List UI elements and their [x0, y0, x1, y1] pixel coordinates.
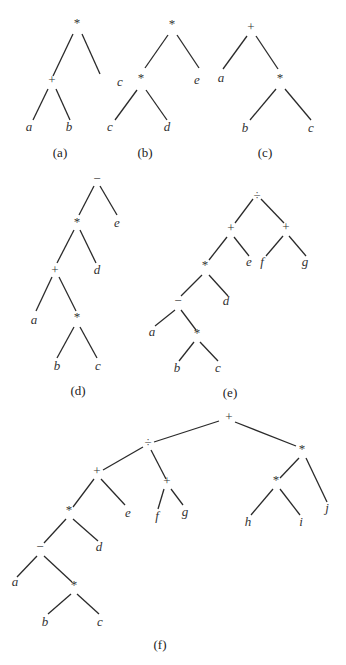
operand-node: c [95, 358, 101, 373]
tree-edge [80, 327, 97, 358]
tree-edge [146, 90, 167, 120]
operator-node: * [71, 577, 78, 592]
operand-node: c [107, 119, 113, 134]
operator-node: * [169, 16, 176, 31]
operator-node: + [247, 19, 254, 34]
operator-node: + [227, 220, 234, 235]
expression-trees-figure: *+cab(a)**ecd(b)+a*bc(c)−*e+da*bc(d)÷++e… [0, 0, 346, 665]
tree-edge [17, 556, 37, 577]
tree-edge [250, 89, 276, 120]
tree-edge [101, 479, 125, 505]
operator-node: * [74, 214, 81, 229]
operand-node: c [215, 360, 221, 375]
tree-caption: (e) [223, 385, 237, 400]
operator-node: * [138, 70, 145, 85]
tree-edge [115, 90, 137, 120]
operand-node: b [42, 614, 49, 629]
tree-edge [235, 199, 253, 223]
operator-node: * [202, 257, 209, 272]
tree-caption: (d) [70, 383, 85, 398]
tree-edge [285, 89, 311, 120]
tree-caption: (a) [53, 145, 67, 160]
tree-d: −*e+da*bc(d) [31, 171, 120, 398]
operand-node: a [31, 312, 38, 327]
operator-node: + [51, 262, 58, 277]
operand-node: a [12, 574, 19, 589]
tree-edge [80, 230, 96, 263]
tree-edge [33, 89, 48, 120]
tree-edge [158, 489, 164, 509]
tree-edge [73, 519, 98, 541]
operand-node: b [242, 120, 249, 135]
tree-edge [179, 342, 194, 361]
operand-node: g [302, 254, 309, 269]
operator-node: + [48, 72, 55, 87]
operand-node: d [223, 293, 230, 308]
tree-edge [82, 34, 100, 74]
operand-node: d [96, 539, 103, 554]
tree-edge [57, 230, 74, 263]
tree-edge [235, 422, 296, 446]
operator-node: ÷ [253, 187, 260, 202]
tree-edge [171, 489, 183, 505]
operand-node: f [155, 508, 161, 523]
tree-edge [181, 275, 202, 296]
operand-node: d [164, 119, 171, 134]
tree-edge [306, 458, 327, 502]
operator-node: ÷ [144, 434, 151, 449]
tree-edge [44, 519, 66, 543]
operator-node: * [74, 309, 81, 324]
tree-caption: (c) [258, 145, 272, 160]
operand-node: e [194, 72, 200, 87]
tree-edge [200, 342, 218, 361]
tree-edge [266, 236, 283, 256]
operand-node: c [97, 614, 103, 629]
operand-node: c [117, 74, 123, 89]
tree-edge [59, 277, 76, 311]
operand-node: i [299, 514, 303, 529]
operator-node: + [225, 409, 232, 424]
operand-node: a [218, 70, 225, 85]
operand-node: j [323, 500, 329, 515]
operator-node: + [282, 219, 289, 234]
operand-node: c [308, 120, 314, 135]
operator-node: + [93, 463, 100, 478]
operand-node: h [245, 514, 252, 529]
operator-node: * [277, 70, 284, 85]
tree-caption: (f) [154, 637, 167, 652]
tree-edge [289, 236, 306, 256]
operand-node: e [125, 505, 131, 520]
tree-edge [77, 594, 99, 614]
tree-e: ÷++efg*d−a*bc(e) [149, 187, 309, 400]
operand-node: a [149, 324, 156, 339]
operator-node: * [273, 472, 280, 487]
operand-node: b [66, 119, 73, 134]
tree-edge [73, 479, 94, 507]
operand-node: a [26, 119, 33, 134]
tree-edge [57, 327, 74, 358]
operand-node: f [260, 254, 266, 269]
tree-edge [251, 489, 273, 515]
operand-node: g [182, 504, 189, 519]
tree-edge [44, 556, 72, 582]
tree-edge [48, 594, 71, 614]
tree-edge [53, 34, 73, 76]
operator-node: − [93, 171, 100, 186]
tree-edge [177, 35, 199, 68]
operator-node: + [163, 473, 170, 488]
tree-caption: (b) [137, 145, 152, 160]
tree-edge [56, 89, 70, 120]
operator-node: − [36, 539, 43, 554]
operator-node: * [66, 502, 73, 517]
tree-edge [280, 458, 299, 478]
tree-edge [261, 199, 284, 223]
tree-edge [36, 277, 52, 311]
operator-node: − [174, 293, 181, 308]
tree-edge [145, 35, 168, 68]
operand-node: b [54, 358, 61, 373]
tree-edge [79, 186, 94, 215]
tree-edge [280, 489, 300, 515]
tree-edge [256, 36, 278, 69]
operator-node: * [299, 441, 306, 456]
operand-node: e [246, 254, 252, 269]
